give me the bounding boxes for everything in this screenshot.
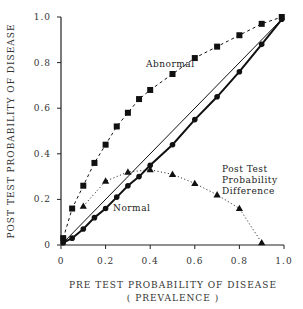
- triangle-marker: [191, 180, 198, 186]
- square-marker: [103, 142, 109, 148]
- label-diff-line1: Post Test: [222, 164, 268, 174]
- y-tick-label: 0.6: [34, 103, 51, 113]
- y-tick-label: 0.8: [34, 58, 51, 68]
- circle-marker: [114, 194, 120, 200]
- triangle-marker: [258, 239, 265, 245]
- square-marker: [147, 87, 153, 93]
- series-line-identity-y-x: [61, 17, 284, 245]
- square-marker: [69, 206, 75, 212]
- circle-marker: [237, 69, 243, 75]
- y-tick-label: 0: [44, 240, 51, 250]
- circle-marker: [125, 183, 131, 189]
- circle-marker: [92, 215, 98, 221]
- triangle-marker: [214, 191, 221, 197]
- circle-marker: [214, 94, 220, 100]
- y-tick-label: 0.4: [34, 149, 51, 159]
- x-tick-label: 1.0: [275, 256, 292, 266]
- label-abnormal: Abnormal: [145, 59, 195, 69]
- x-tick-label: 0: [58, 256, 65, 266]
- square-marker: [136, 96, 142, 102]
- circle-marker: [170, 142, 176, 148]
- triangle-marker: [102, 177, 109, 183]
- y-tick-label: 1.0: [34, 12, 51, 22]
- square-marker: [236, 32, 242, 38]
- x-axis-title: PRE TEST PROBABILITY OF DISEASE: [69, 280, 277, 290]
- circle-marker: [103, 206, 109, 212]
- series-line-abnormal: [63, 17, 282, 238]
- circle-marker: [81, 226, 87, 232]
- square-marker: [170, 71, 176, 77]
- y-axis-title: POST TEST PROBABILITY OF DISEASE: [6, 23, 16, 238]
- x-tick-label: 0.4: [142, 256, 159, 266]
- x-axis-subtitle: ( PREVALENCE ): [127, 293, 219, 303]
- triangle-marker: [169, 171, 176, 177]
- triangle-marker: [236, 205, 243, 211]
- x-tick-label: 0.2: [97, 256, 114, 266]
- roc-style-chart: 00.20.40.60.81.000.20.40.60.81.0 Abnorma…: [0, 0, 303, 309]
- square-marker: [114, 123, 120, 129]
- square-marker: [125, 110, 131, 116]
- x-tick-label: 0.8: [231, 256, 248, 266]
- x-tick-label: 0.6: [186, 256, 203, 266]
- circle-marker: [192, 117, 198, 123]
- label-normal: Normal: [113, 203, 150, 213]
- square-marker: [80, 183, 86, 189]
- square-marker: [259, 21, 265, 27]
- label-diff-line3: Difference: [222, 186, 275, 196]
- y-tick-label: 0.2: [34, 194, 51, 204]
- circle-marker: [136, 174, 142, 180]
- chart-series: [60, 14, 285, 246]
- label-diff-line2: Probability: [222, 175, 278, 185]
- chart-axes: 00.20.40.60.81.000.20.40.60.81.0: [34, 12, 293, 266]
- chart-annotations: Abnormal Normal Post Test Probability Di…: [113, 59, 278, 213]
- square-marker: [214, 44, 220, 50]
- square-marker: [91, 160, 97, 166]
